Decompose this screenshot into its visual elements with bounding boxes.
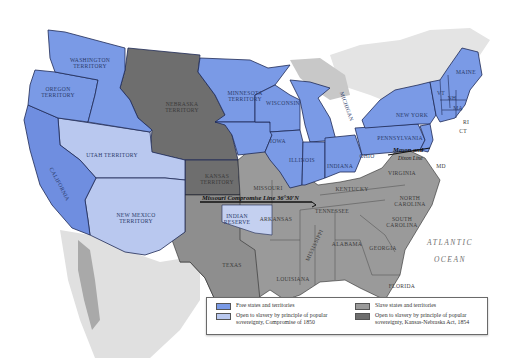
label-kansas-2: TERRITORY	[200, 179, 234, 185]
label-ri: RI	[463, 119, 469, 125]
label-arkansas: ARKANSAS	[260, 216, 293, 222]
legend-swatch-compromise-1850	[216, 313, 231, 320]
legend-label: Slave states and territories	[375, 302, 480, 309]
label-alabama: ALABAMA	[332, 241, 362, 247]
legend-label: Open to slavery by principle of popular …	[236, 312, 341, 325]
label-maine: MAINE	[456, 69, 476, 75]
label-ma: MA	[453, 105, 463, 111]
map-legend: Free states and territories Open to slav…	[206, 297, 488, 335]
legend-item-free: Free states and territories	[216, 302, 341, 310]
label-mason-dixon-2: Dixon Line	[397, 155, 423, 161]
label-ct: CT	[459, 128, 467, 134]
label-louisiana: LOUISIANA	[276, 276, 309, 282]
label-new-york: NEW YORK	[396, 112, 428, 118]
legend-swatch-slave	[355, 303, 370, 310]
legend-item-compromise-1850: Open to slavery by principle of popular …	[216, 312, 341, 325]
label-iowa: IOWA	[270, 138, 286, 144]
label-illinois: ILLINOIS	[289, 157, 315, 163]
label-oregon-2: TERRITORY	[41, 92, 75, 98]
label-north-carolina-2: CAROLINA	[394, 201, 425, 207]
label-missouri-compromise-line: Missouri Compromise Line 36°30′N	[201, 194, 299, 201]
label-tennessee: TENNESSEE	[315, 208, 349, 214]
label-vt: VT	[437, 90, 445, 96]
label-ocean: OCEAN	[434, 255, 466, 264]
label-nebraska-2: TERRITORY	[165, 107, 199, 113]
legend-item-slave: Slave states and territories	[355, 302, 480, 310]
label-wisconsin: WISCONSIN	[266, 100, 300, 106]
label-nh: NH	[448, 95, 457, 101]
label-texas: TEXAS	[222, 262, 242, 268]
label-utah: UTAH TERRITORY	[86, 152, 138, 158]
label-michigan: MICHIGAN	[339, 91, 355, 122]
region-ohio	[325, 135, 362, 178]
legend-item-kansas-nebraska-1854: Open to slavery by principle of popular …	[355, 312, 495, 325]
legend-swatch-free	[216, 303, 231, 310]
label-ohio: OHIO	[359, 153, 374, 159]
region-indiana	[302, 142, 325, 185]
label-indiana: INDIANA	[327, 163, 353, 169]
label-missouri: MISSOURI	[253, 185, 282, 191]
label-minnesota-2: TERRITORY	[228, 96, 262, 102]
label-florida: FLORIDA	[389, 283, 415, 289]
label-new-mexico-2: TERRITORY	[119, 218, 153, 224]
label-indian-reserve-2: RESERVE	[224, 219, 251, 225]
label-pennsylvania: PENNSYLVANIA	[377, 135, 423, 141]
legend-swatch-kansas-nebraska-1854	[355, 313, 370, 320]
label-washington-2: TERRITORY	[73, 63, 107, 69]
label-kentucky: KENTUCKY	[335, 186, 368, 192]
legend-label: Open to slavery by principle of popular …	[375, 312, 495, 325]
label-md: MD	[436, 163, 446, 169]
label-georgia: GEORGIA	[369, 245, 396, 251]
label-atlantic: ATLANTIC	[426, 238, 473, 247]
label-virginia: VIRGINIA	[388, 170, 416, 176]
legend-label: Free states and territories	[236, 302, 341, 309]
label-south-carolina-2: CAROLINA	[386, 222, 417, 228]
label-mason-dixon-1: Mason and	[392, 146, 424, 153]
